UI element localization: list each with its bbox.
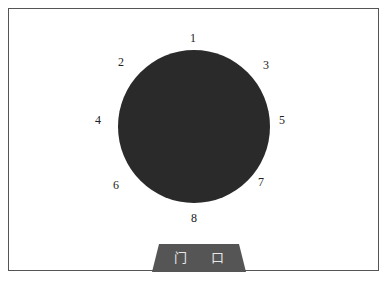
seat-label-6: 6 [113, 178, 119, 193]
door: 门 口 [152, 244, 246, 272]
seat-label-1: 1 [190, 31, 196, 46]
door-label: 门 口 [152, 244, 246, 272]
round-table [118, 50, 270, 203]
seat-label-4: 4 [95, 113, 101, 128]
seat-label-3: 3 [263, 58, 269, 73]
seat-label-8: 8 [191, 211, 197, 226]
seat-label-7: 7 [258, 175, 264, 190]
seat-label-2: 2 [118, 55, 124, 70]
seat-label-5: 5 [279, 113, 285, 128]
